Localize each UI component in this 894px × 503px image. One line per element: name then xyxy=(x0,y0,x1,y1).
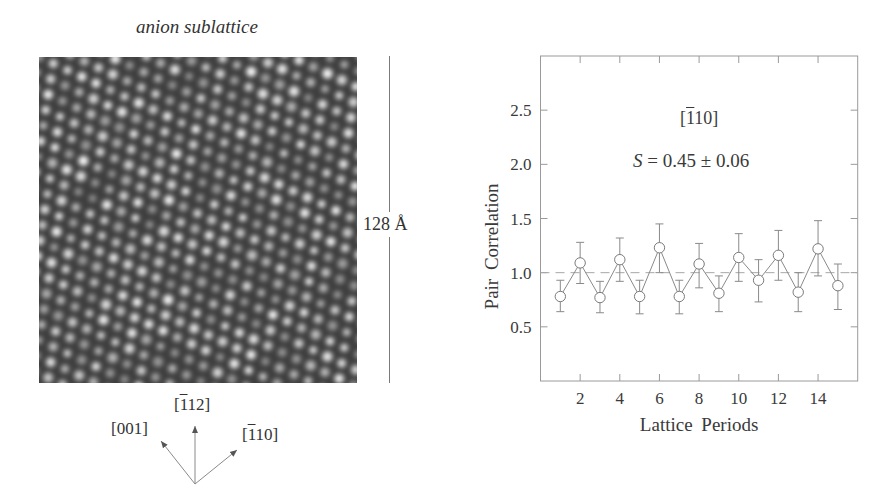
data-point-marker xyxy=(833,280,843,290)
x-tick-label: 12 xyxy=(770,389,787,408)
data-point-marker xyxy=(615,254,625,264)
data-point-marker xyxy=(674,291,684,301)
x-tick-label: 10 xyxy=(730,389,747,408)
data-point-marker xyxy=(714,288,724,298)
data-point-marker xyxy=(773,250,783,260)
data-point-marker xyxy=(634,291,644,301)
order-symbol: S xyxy=(633,150,643,171)
y-tick-label: 2.5 xyxy=(510,101,531,120)
pair-correlation-chart: 24681012140.51.01.52.02.5 Lattice Period… xyxy=(0,0,894,503)
data-point-marker xyxy=(575,258,585,268)
y-tick-label: 1.5 xyxy=(510,210,531,229)
x-tick-label: 14 xyxy=(810,389,828,408)
x-tick-label: 2 xyxy=(576,389,585,408)
chart-annotation-direction: [110] xyxy=(680,108,718,129)
y-tick-label: 0.5 xyxy=(510,318,531,337)
x-tick-label: 6 xyxy=(655,389,664,408)
x-axis-label: Lattice Periods xyxy=(640,414,759,435)
data-point-marker xyxy=(595,292,605,302)
y-axis-label: Pair Correlation xyxy=(481,183,502,309)
data-point-marker xyxy=(694,259,704,269)
data-point-marker xyxy=(753,275,763,285)
y-tick-label: 1.0 xyxy=(510,264,531,283)
order-value: = 0.45 ± 0.06 xyxy=(647,150,749,171)
y-tick-label: 2.0 xyxy=(510,155,531,174)
data-series xyxy=(555,221,843,314)
data-point-marker xyxy=(793,287,803,297)
x-tick-label: 4 xyxy=(616,389,625,408)
data-point-marker xyxy=(555,291,565,301)
label-rest: 10] xyxy=(694,108,718,128)
data-point-marker xyxy=(813,244,823,254)
chart-annotation-order-parameter: S = 0.45 ± 0.06 xyxy=(633,150,749,172)
x-tick-label: 8 xyxy=(695,389,704,408)
data-point-marker xyxy=(734,252,744,262)
plot-frame xyxy=(541,56,858,381)
data-point-marker xyxy=(654,243,664,253)
